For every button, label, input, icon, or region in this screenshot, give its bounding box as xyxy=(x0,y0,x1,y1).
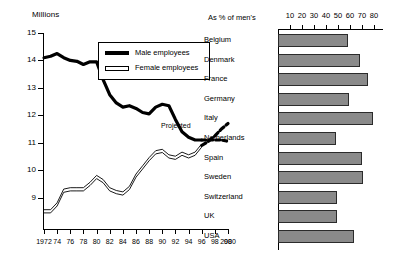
y-tick xyxy=(38,143,43,144)
bar-chart-row[interactable]: USA xyxy=(240,228,405,245)
female-employees-line-lower xyxy=(44,147,202,213)
x-tick xyxy=(149,230,150,234)
bar-chart-row[interactable]: France xyxy=(240,71,405,88)
bar-chart-caption: As % of men's xyxy=(208,13,256,22)
bar[interactable] xyxy=(278,132,336,145)
x-tick xyxy=(44,230,45,234)
x-tick-label: 92 xyxy=(170,238,180,246)
bar-category-label: Netherlands xyxy=(204,133,244,143)
bar-category-label: Sweden xyxy=(204,172,231,182)
bar-chart-row[interactable]: Netherlands xyxy=(240,130,405,147)
y-tick-label: 14 xyxy=(14,56,36,64)
x-tick xyxy=(202,230,203,234)
bar[interactable] xyxy=(278,112,373,125)
bar[interactable] xyxy=(278,73,368,86)
y-tick xyxy=(38,88,43,89)
legend-row-male: Male employees xyxy=(105,47,205,59)
bar-category-label: Spain xyxy=(204,153,223,163)
legend-row-female: Female employees xyxy=(105,62,205,74)
female-line-swatch-icon xyxy=(105,66,129,71)
x-tick xyxy=(175,230,176,234)
y-tick-label: 13 xyxy=(14,84,36,92)
x-tick-label: 76 xyxy=(65,238,75,246)
bar-chart-row[interactable]: Spain xyxy=(240,150,405,167)
y-tick xyxy=(38,60,43,61)
x-tick-label: 74 xyxy=(52,238,62,246)
bar-category-label: Switzerland xyxy=(204,192,243,202)
bar[interactable] xyxy=(278,230,354,243)
male-line-swatch-icon xyxy=(105,51,129,55)
y-tick xyxy=(38,198,43,199)
bar-chart-row[interactable]: Italy xyxy=(240,110,405,127)
bar-category-label: Denmark xyxy=(204,55,234,65)
bar[interactable] xyxy=(278,34,348,47)
y-tick-label: 10 xyxy=(14,166,36,174)
bar-chart-row[interactable]: UK xyxy=(240,208,405,225)
x-tick xyxy=(70,230,71,234)
line-chart-y-axis xyxy=(43,33,44,230)
bar-chart-row[interactable]: Switzerland xyxy=(240,189,405,206)
female-employees-line-upper xyxy=(44,144,202,210)
bar-chart-row[interactable]: Belgium xyxy=(240,32,405,49)
x-tick xyxy=(57,230,58,234)
x-tick-label: 84 xyxy=(118,238,128,246)
x-tick-label: 2000 xyxy=(218,238,238,246)
bar-category-label: USA xyxy=(204,231,219,241)
x-tick xyxy=(83,230,84,234)
x-tick-label: 82 xyxy=(105,238,115,246)
bar[interactable] xyxy=(278,54,360,67)
x-tick xyxy=(97,230,98,234)
y-tick-label: 11 xyxy=(14,139,36,147)
x-tick xyxy=(110,230,111,234)
legend-label-male: Male employees xyxy=(135,47,190,59)
x-tick-label: 1972 xyxy=(34,238,54,246)
bar[interactable] xyxy=(278,191,337,204)
bar-chart-row[interactable]: Sweden xyxy=(240,169,405,186)
x-tick-label: 90 xyxy=(157,238,167,246)
bar[interactable] xyxy=(278,210,337,223)
y-tick-label: 15 xyxy=(14,29,36,37)
bar[interactable] xyxy=(278,152,362,165)
y-tick xyxy=(38,170,43,171)
x-tick xyxy=(123,230,124,234)
y-tick-label: 9 xyxy=(14,194,36,202)
y-tick-label: 12 xyxy=(14,111,36,119)
bar-chart-row[interactable]: Germany xyxy=(240,91,405,108)
bar-chart-panel: As % of men's 1020304050607080 BelgiumDe… xyxy=(240,0,405,269)
bar-category-label: Italy xyxy=(204,113,218,123)
y-tick xyxy=(38,33,43,34)
bar-category-label: UK xyxy=(204,211,214,221)
x-tick-label: 80 xyxy=(92,238,102,246)
x-tick-label: 94 xyxy=(184,238,194,246)
bar[interactable] xyxy=(278,171,363,184)
bar-axis-tick-label: 80 xyxy=(367,12,381,20)
x-tick-label: 88 xyxy=(144,238,154,246)
legend-label-female: Female employees xyxy=(135,62,198,74)
bar-category-label: Belgium xyxy=(204,35,231,45)
bar-chart-row[interactable]: Denmark xyxy=(240,52,405,69)
bar[interactable] xyxy=(278,93,349,106)
line-chart-legend: Male employees Female employees xyxy=(98,42,210,80)
x-tick-label: 86 xyxy=(131,238,141,246)
x-tick-label: 78 xyxy=(78,238,88,246)
bar-category-label: Germany xyxy=(204,94,235,104)
x-tick xyxy=(189,230,190,234)
line-chart-axis-title: Millions xyxy=(32,10,59,19)
y-tick xyxy=(38,115,43,116)
projected-annotation: Projected xyxy=(161,122,191,129)
x-tick xyxy=(136,230,137,234)
x-tick xyxy=(228,230,229,234)
x-tick xyxy=(162,230,163,234)
bar-chart-top-axis xyxy=(278,29,383,30)
bar-category-label: France xyxy=(204,74,227,84)
